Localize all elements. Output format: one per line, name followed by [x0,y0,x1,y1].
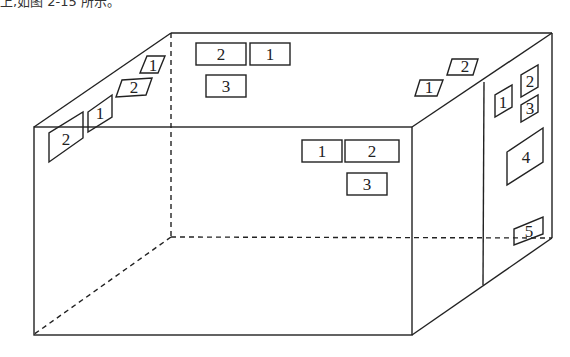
right-label-4: 4 [522,148,531,167]
bottom-left-diagonal-edge [33,237,171,335]
right-label-2: 2 [526,72,535,91]
back-label-2: 2 [217,45,226,64]
visible-edges [34,33,552,335]
right-label-1: 1 [499,93,508,112]
right-wall-group [495,65,543,245]
top-right-label-2: 2 [461,57,470,76]
back-label-1: 1 [266,45,275,64]
right-label-5: 5 [525,222,534,241]
front-face [34,127,412,335]
left-top-label-1: 1 [149,56,158,75]
right-label-3: 3 [526,99,535,118]
front-label-2: 2 [368,142,377,161]
top-right-label-1: 1 [425,78,434,97]
room-box-diagram: 1 2 1 2 2 1 3 2 1 1 2 3 1 2 3 4 5 [0,0,570,357]
front-label-1: 1 [318,142,327,161]
front-wall-group [302,140,399,195]
right-wall-partition [483,82,484,285]
left-wall-label-2: 2 [62,130,71,149]
back-wall-top-group [196,43,290,97]
back-label-3: 3 [222,77,231,96]
bottom-right-diagonal-edge [412,238,552,335]
front-label-3: 3 [363,175,372,194]
left-wall-label-1: 1 [96,104,105,123]
back-bottom-edge [171,237,552,238]
left-top-label-2: 2 [130,78,139,97]
hidden-edges [33,33,552,335]
